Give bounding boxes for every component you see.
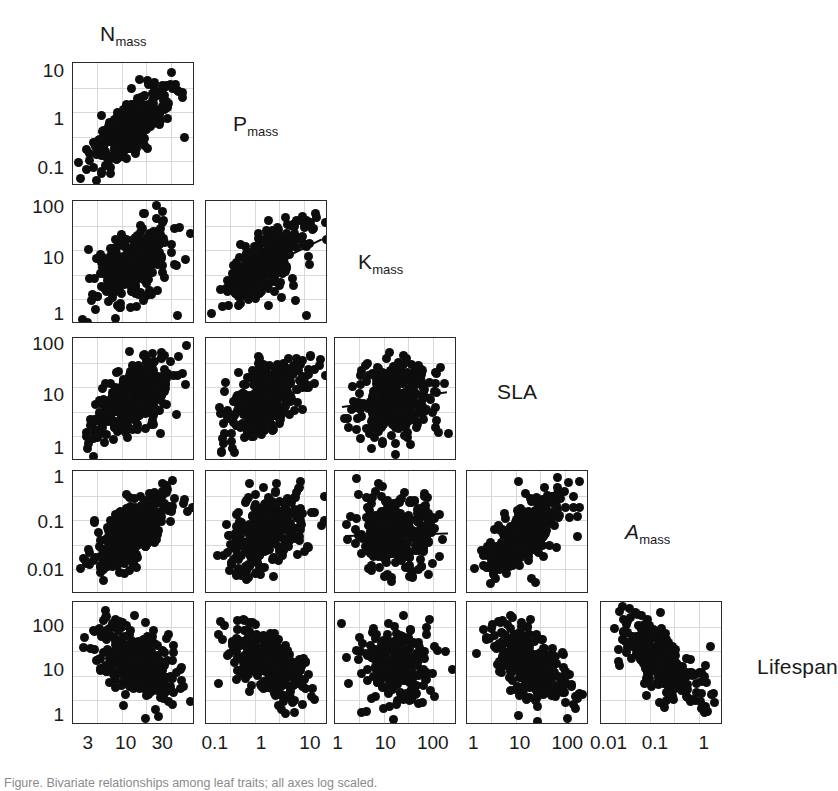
y-tick-amass-10: 10 [43,659,64,681]
data-points [73,201,193,322]
scatter-panel-SLA-vs-Lifespan [466,601,588,724]
scatter-panel-Amass-vs-Lifespan [600,601,722,724]
data-points [206,602,326,723]
x-tick-pmass-1: 1 [256,732,267,754]
variable-label-kmass: Kmass [358,250,403,277]
x-tick-amass-0p1: 0.1 [642,732,668,754]
scatterplot-matrix-figure: NmassPmassKmassSLAAmassLifespan 1010.110… [0,0,838,791]
y-tick-sla-1: 1 [53,466,64,488]
data-points [73,338,193,459]
data-points [467,602,587,723]
scatter-panel-Pmass-vs-Kmass [205,200,327,323]
x-tick-sla-10: 10 [509,732,530,754]
y-tick-sla-0p01: 0.01 [27,559,64,581]
scatter-panel-Pmass-vs-Lifespan [205,601,327,724]
y-tick-nmass-10: 10 [43,60,64,82]
data-points [335,471,455,592]
x-tick-sla-1: 1 [468,732,479,754]
scatter-panel-Kmass-vs-Amass [334,470,456,593]
figure-caption: Figure. Bivariate relationships among le… [0,775,838,791]
x-tick-nmass-3: 3 [83,732,94,754]
x-tick-pmass-0p1: 0.1 [202,732,228,754]
variable-label-pmass: Pmass [233,112,278,139]
data-points [335,602,455,723]
data-points [73,63,193,184]
x-tick-amass-0p01: 0.01 [590,732,627,754]
y-tick-pmass-100: 100 [32,196,64,218]
variable-label-lifespan: Lifespan [757,655,838,679]
data-points [206,471,326,592]
x-tick-kmass-100: 100 [417,732,449,754]
data-points [601,602,721,723]
y-tick-amass-1: 1 [53,704,64,726]
x-tick-kmass-10: 10 [375,732,396,754]
x-tick-sla-100: 100 [551,732,583,754]
data-points [73,471,193,592]
data-points [73,602,193,723]
data-points [206,338,326,459]
scatter-panel-Pmass-vs-Amass [205,470,327,593]
scatter-panel-SLA-vs-Amass [466,470,588,593]
y-tick-kmass-100: 100 [32,333,64,355]
scatter-panel-Nmass-vs-Lifespan [72,601,194,724]
variable-label-sla: SLA [497,380,537,404]
scatter-panel-Nmass-vs-Pmass [72,62,194,185]
y-tick-kmass-10: 10 [43,384,64,406]
x-tick-pmass-10: 10 [299,732,320,754]
scatter-panel-Kmass-vs-SLA [334,337,456,460]
x-tick-amass-1: 1 [698,732,709,754]
data-points [467,471,587,592]
y-tick-nmass-0p1: 0.1 [38,157,64,179]
x-tick-nmass-10: 10 [115,732,136,754]
x-tick-kmass-1: 1 [332,732,343,754]
y-tick-pmass-10: 10 [43,247,64,269]
y-tick-pmass-1: 1 [53,303,64,325]
y-tick-kmass-1: 1 [53,437,64,459]
scatter-panel-Kmass-vs-Lifespan [334,601,456,724]
y-tick-amass-100: 100 [32,615,64,637]
scatter-panel-Pmass-vs-SLA [205,337,327,460]
variable-label-nmass: Nmass [100,22,146,49]
x-tick-nmass-30: 30 [152,732,173,754]
scatter-panel-Nmass-vs-Amass [72,470,194,593]
scatter-panel-Nmass-vs-SLA [72,337,194,460]
y-tick-nmass-1: 1 [53,108,64,130]
data-points [206,201,326,322]
y-tick-sla-0p1: 0.1 [38,511,64,533]
variable-label-amass: Amass [625,520,670,547]
scatter-panel-Nmass-vs-Kmass [72,200,194,323]
